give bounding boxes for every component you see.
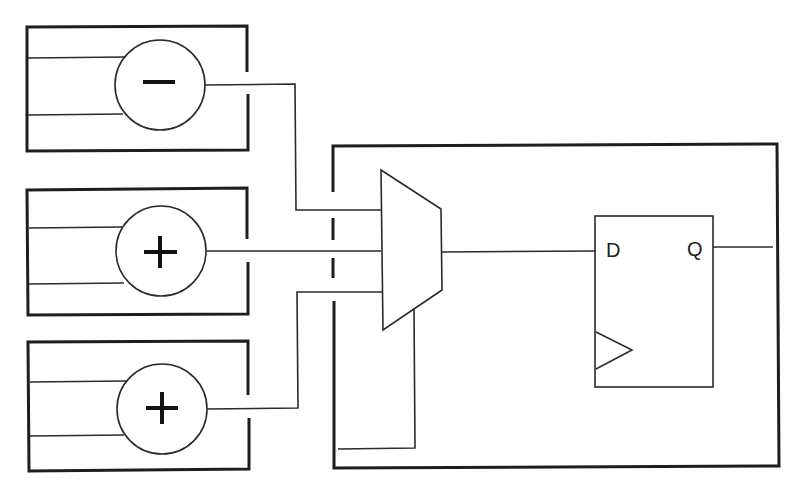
clock-triangle-icon bbox=[596, 332, 632, 369]
subtract-input-b bbox=[28, 114, 123, 115]
q-output-label: Q bbox=[687, 238, 703, 260]
subtract-block bbox=[27, 26, 381, 210]
mux-output-wire bbox=[442, 251, 596, 252]
add-block-1 bbox=[27, 188, 381, 315]
d-input-label: D bbox=[606, 239, 620, 261]
add-block-2-frame bbox=[28, 341, 249, 471]
subtract-input-a bbox=[28, 57, 125, 58]
add-1-input-a bbox=[29, 227, 122, 228]
mux bbox=[381, 170, 442, 330]
add-2-input-a bbox=[30, 381, 126, 382]
add-2-input-b bbox=[30, 435, 124, 436]
subtract-block-frame bbox=[27, 26, 248, 151]
register-block: D Q bbox=[333, 144, 779, 468]
subtract-operator-circle bbox=[115, 40, 205, 130]
add-block-2 bbox=[28, 292, 383, 471]
register-block-frame bbox=[333, 144, 779, 468]
add-1-input-b bbox=[29, 283, 124, 284]
add-2-output-wire bbox=[207, 292, 383, 409]
logic-diagram: D Q bbox=[0, 0, 800, 494]
mux-select-wire bbox=[338, 309, 415, 449]
